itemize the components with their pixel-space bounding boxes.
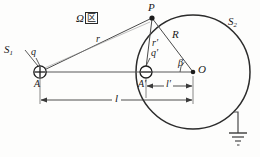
label-r: r [96,34,100,44]
label-l-prime: l′ [164,79,173,89]
region-box-character: 区 [85,12,98,24]
point-O-dot [191,70,196,75]
figure-canvas: Ω区 S1 S2 P O q A q′ A′ r r′ R β l l′ [0,0,260,157]
point-P-dot [149,15,154,20]
label-O: O [198,64,206,75]
negative-charge-symbol [140,66,152,78]
label-l: l [112,93,121,104]
label-r-prime: r′ [152,38,158,48]
label-S2-sub: 2 [234,21,237,28]
label-S1: S1 [4,44,13,57]
positive-charge-symbol [34,66,46,78]
label-beta: β [178,58,183,68]
label-A-prime: A′ [138,79,146,89]
label-A: A [34,79,40,89]
label-q: q [31,47,36,57]
ground-symbol [229,112,247,145]
label-P: P [148,2,155,13]
region-label: Ω区 [76,12,98,24]
label-S1-sub: 1 [10,49,13,56]
guide-ray-upper [40,22,150,70]
segment-r [40,18,152,72]
label-q-prime: q′ [151,48,158,58]
region-omega: Ω [76,12,84,24]
label-S2: S2 [228,16,237,29]
segment-R [152,18,193,72]
label-R: R [172,29,179,40]
